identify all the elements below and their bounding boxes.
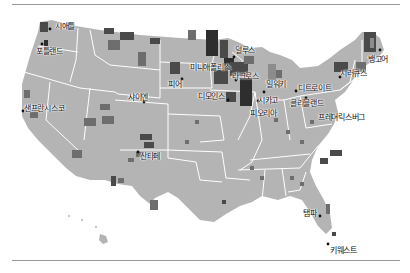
city-label-la-crosse: 라크로스 xyxy=(232,72,259,81)
city-label-san-francisco: 샌프란시스코 xyxy=(24,104,64,113)
city-label-pierre: 피어 xyxy=(168,80,181,89)
hawaii xyxy=(99,234,108,244)
city-label-fredericksburg: 프레더릭스버그 xyxy=(318,113,365,122)
city-label-chicago: 시카고 xyxy=(258,96,278,105)
city-label-detroit: 디트로이트 xyxy=(298,84,332,93)
city-label-cheyenne: 샤이엔 xyxy=(128,93,148,102)
city-label-milwaukee: 밀워키 xyxy=(266,80,286,89)
city-label-santa-fe: 산타페 xyxy=(140,152,160,161)
city-label-bangor: 뱅고어 xyxy=(368,55,388,64)
city-label-peoria: 피오리아 xyxy=(250,109,277,118)
city-label-duluth: 덜루스 xyxy=(235,46,255,55)
city-label-seattle: 시애틀 xyxy=(55,22,75,31)
city-label-des-moines: 디모인스 xyxy=(198,92,225,101)
us-county-map xyxy=(0,0,410,273)
city-label-key-west: 키웨스트 xyxy=(330,246,357,255)
city-label-portland: 포틀랜드 xyxy=(36,47,63,56)
city-label-cleveland: 클리블랜드 xyxy=(290,99,324,108)
city-label-syracuse: 시러큐스 xyxy=(340,69,367,78)
city-label-tampa: 탬파 xyxy=(303,209,316,218)
city-label-minneapolis: 미니애폴리스 xyxy=(190,63,230,72)
